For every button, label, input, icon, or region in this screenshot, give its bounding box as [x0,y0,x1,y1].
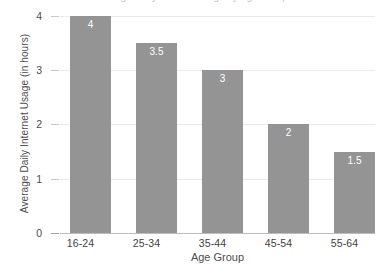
xtick-label-45-54: 45-54 [248,237,309,249]
bar-25-34[interactable]: 3.5 [136,43,177,233]
plot-area: 4 3.5 3 2 1.5 [60,16,375,233]
xtick-label-55-64: 55-64 [314,237,375,249]
gridline-0-axis [60,233,375,234]
ytick-mark-0 [51,233,59,234]
chart-title: Average Daily Internet Usage by Age Grou… [0,0,383,2]
xtick-label-25-34: 25-34 [116,237,177,249]
xtick-label-16-24: 16-24 [50,237,111,249]
ytick-mark-2 [51,124,59,125]
bar-16-24[interactable]: 4 [70,16,111,233]
bar-35-44[interactable]: 3 [202,70,243,233]
xtick-label-35-44: 35-44 [182,237,243,249]
x-axis-title: Age Group [60,251,375,263]
ytick-mark-1 [51,179,59,180]
ytick-mark-3 [51,70,59,71]
bar-value-label: 4 [70,19,111,30]
chart-figure: Average Daily Internet Usage by Age Grou… [0,0,383,269]
y-axis-title: Average Daily Internet Usage (in hours) [19,8,30,240]
bar-45-54[interactable]: 2 [268,124,309,233]
bar-value-label: 1.5 [334,155,375,166]
bar-55-64[interactable]: 1.5 [334,152,375,233]
bar-value-label: 3.5 [136,46,177,57]
bar-value-label: 2 [268,127,309,138]
ytick-mark-4 [51,16,59,17]
bar-value-label: 3 [202,73,243,84]
